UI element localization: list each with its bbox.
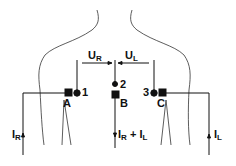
label-2: 2 [120, 79, 126, 90]
circuit [22, 60, 211, 155]
label-b: B [120, 98, 128, 109]
electrode-a [65, 89, 72, 96]
diagram: UR UL 1 2 3 A B C IR IR + IL IL [0, 0, 236, 166]
electrode-c [159, 89, 166, 96]
label-ir-plus-il: IR + IL [118, 129, 147, 142]
label-3: 3 [143, 87, 149, 98]
arrow-sum [114, 133, 117, 137]
sense-point-3 [151, 90, 157, 96]
arrow-ir [22, 133, 25, 137]
electrode-b [112, 91, 119, 98]
label-c: C [157, 98, 165, 109]
sense-point-2 [113, 82, 118, 87]
label-il: IL [214, 129, 222, 142]
label-ir: IR [12, 129, 21, 142]
label-a: A [63, 98, 71, 109]
sense-point-1 [74, 90, 80, 96]
arrow-il [208, 134, 211, 138]
label-1: 1 [82, 87, 88, 98]
label-ul: UL [125, 50, 138, 63]
label-ur: UR [88, 50, 102, 63]
